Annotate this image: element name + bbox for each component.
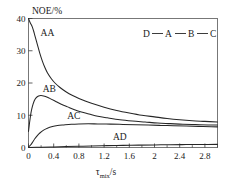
x-axis-title: τmix/s [96, 167, 117, 179]
x-axis-title-unit: /s [110, 167, 117, 177]
curve-label-ac: AC [67, 111, 80, 121]
chain-node-d: D [143, 29, 150, 39]
y-axis-title: NOE/% [32, 6, 62, 16]
x-tick-label: 1.2 [98, 151, 109, 161]
y-tick-label: 20 [17, 78, 27, 88]
x-tick-label: 2 [152, 151, 157, 161]
y-tick-label: 0 [21, 143, 26, 153]
curve-label-aa: AA [41, 28, 55, 38]
x-tick-label: 1.6 [124, 151, 136, 161]
curve-labels: AAABACAD [41, 28, 127, 142]
chain-annotation: D A B C [143, 29, 217, 39]
chain-node-b: B [188, 29, 195, 39]
x-tick-label: 0.8 [73, 151, 85, 161]
y-tick-label: 40 [17, 14, 27, 24]
y-tick-label: 30 [17, 46, 27, 56]
chain-node-c: C [210, 29, 217, 39]
curve-label-ab: AB [43, 84, 56, 94]
curve-label-ad: AD [113, 132, 127, 142]
chain-node-a: A [165, 29, 172, 39]
x-tick-label: 2.4 [174, 151, 186, 161]
y-tick-label: 10 [17, 111, 27, 121]
x-tick-label: 0.4 [48, 151, 60, 161]
x-axis-tick-labels: 00.40.81.21.622.42.8 [26, 151, 211, 161]
x-tick-label: 0 [26, 151, 31, 161]
chart-canvas: 00.40.81.21.622.42.8 010203040 NOE/% τmi… [0, 0, 231, 188]
noe-buildup-figure: 00.40.81.21.622.42.8 010203040 NOE/% τmi… [0, 0, 231, 188]
y-axis-tick-labels: 010203040 [17, 14, 27, 153]
x-tick-label: 2.8 [199, 151, 211, 161]
